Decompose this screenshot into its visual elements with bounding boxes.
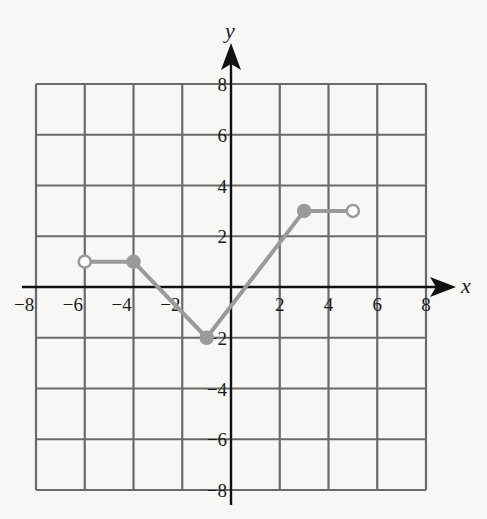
- x-tick-label: −8: [14, 294, 34, 315]
- y-tick-label: 6: [218, 125, 228, 146]
- open-endpoint-icon: [347, 205, 359, 217]
- closed-point-icon: [298, 205, 310, 217]
- x-tick-label: −4: [112, 294, 133, 315]
- function-graph: xy −8−6−4−224688642−2−4−6−8: [0, 0, 487, 519]
- y-tick-label: 2: [218, 226, 228, 247]
- y-axis-label: y: [223, 18, 235, 43]
- closed-point-icon: [128, 256, 140, 268]
- y-tick-label: 4: [218, 176, 228, 197]
- x-tick-label: 8: [421, 294, 431, 315]
- x-tick-label: 4: [324, 294, 334, 315]
- y-tick-label: −6: [207, 429, 227, 450]
- y-tick-label: −8: [207, 480, 227, 501]
- y-tick-label: 8: [218, 74, 228, 95]
- x-tick-label: 6: [373, 294, 383, 315]
- open-endpoint-icon: [79, 256, 91, 268]
- x-tick-label: 2: [275, 294, 285, 315]
- closed-point-icon: [201, 332, 213, 344]
- x-axis-label: x: [460, 273, 471, 298]
- y-tick-label: −4: [207, 379, 228, 400]
- x-tick-label: −6: [63, 294, 83, 315]
